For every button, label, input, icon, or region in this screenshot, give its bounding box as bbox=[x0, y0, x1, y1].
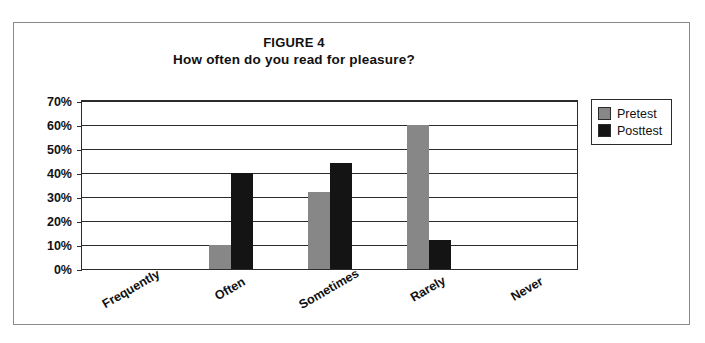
y-tick-label-40: 40% bbox=[47, 167, 72, 181]
x-axis-label-cell: Often bbox=[180, 268, 279, 324]
x-axis-label-cell: Sometimes bbox=[279, 268, 378, 324]
bar-pretest[interactable] bbox=[407, 125, 429, 269]
x-axis-label-frequently: Frequently bbox=[99, 267, 161, 311]
bar-group bbox=[82, 101, 181, 269]
bar-posttest[interactable] bbox=[231, 173, 253, 269]
y-tick-label-70: 70% bbox=[47, 95, 72, 109]
figure-frame: FIGURE 4 How often do you read for pleas… bbox=[13, 22, 690, 325]
x-axis-label-cell: Frequently bbox=[81, 268, 180, 324]
figure-label: FIGURE 4 bbox=[14, 35, 574, 51]
legend-swatch-posttest-icon bbox=[598, 124, 611, 137]
figure-subtitle: How often do you read for pleasure? bbox=[14, 51, 574, 69]
bar-group bbox=[181, 101, 280, 269]
x-axis-label-cell: Never bbox=[477, 268, 576, 324]
bar-pretest[interactable] bbox=[308, 192, 330, 269]
x-axis-label-never: Never bbox=[508, 274, 545, 303]
bar-group bbox=[280, 101, 379, 269]
legend-label: Pretest bbox=[617, 107, 657, 121]
y-tick-label-0: 0% bbox=[54, 263, 72, 277]
y-tick-label-50: 50% bbox=[47, 143, 72, 157]
bar-pretest[interactable] bbox=[209, 245, 231, 269]
legend-label: Posttest bbox=[617, 124, 662, 138]
bar-posttest[interactable] bbox=[330, 163, 352, 269]
bars-layer bbox=[82, 101, 577, 269]
plot-area: 70% 60% 50% 40% 30% 20% 10% 0% bbox=[81, 100, 578, 270]
bar-group bbox=[478, 101, 577, 269]
x-axis-label-cell: Rarely bbox=[378, 268, 477, 324]
chart-title-block: FIGURE 4 How often do you read for pleas… bbox=[14, 35, 574, 69]
bar-group bbox=[379, 101, 478, 269]
y-tick-label-30: 30% bbox=[47, 191, 72, 205]
x-axis-labels: FrequentlyOftenSometimesRarelyNever bbox=[81, 268, 576, 324]
x-axis-label-often: Often bbox=[212, 275, 247, 303]
bar-posttest[interactable] bbox=[429, 240, 451, 269]
x-axis-label-rarely: Rarely bbox=[407, 273, 447, 304]
legend-item-posttest[interactable]: Posttest bbox=[598, 122, 662, 139]
x-axis-label-sometimes: Sometimes bbox=[296, 266, 361, 311]
legend-swatch-pretest-icon bbox=[598, 107, 611, 120]
y-tick-label-60: 60% bbox=[47, 119, 72, 133]
chart-legend: PretestPosttest bbox=[591, 99, 672, 145]
y-tick-label-20: 20% bbox=[47, 215, 72, 229]
y-tick-label-10: 10% bbox=[47, 239, 72, 253]
legend-item-pretest[interactable]: Pretest bbox=[598, 105, 662, 122]
